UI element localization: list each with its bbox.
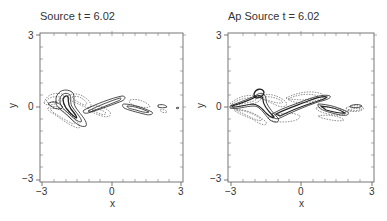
y-tick-bottom: −3 [22, 173, 33, 184]
y-axis-label: y [195, 103, 206, 108]
x-tick-mid: 0 [298, 186, 304, 197]
x-tick-right: 3 [369, 186, 375, 197]
panel-source: Source t = 6.02 [0, 0, 193, 221]
panel-ap-source: Ap Source t = 6.02 [188, 0, 387, 221]
x-tick-right: 3 [178, 186, 184, 197]
y-tick-top: 3 [216, 30, 222, 41]
x-axis-label: x [110, 198, 115, 209]
y-tick-bottom: −3 [210, 173, 221, 184]
y-axis-label: y [7, 103, 18, 108]
x-tick-left: −3 [36, 186, 47, 197]
x-tick-left: −3 [225, 186, 236, 197]
x-axis-label: x [299, 198, 304, 209]
y-tick-mid: 0 [28, 101, 34, 112]
y-tick-mid: 0 [216, 101, 222, 112]
y-tick-top: 3 [28, 30, 34, 41]
x-tick-mid: 0 [109, 186, 115, 197]
